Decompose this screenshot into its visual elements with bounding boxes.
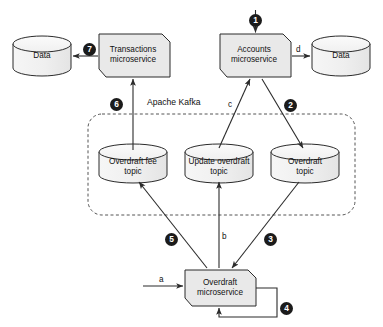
service-accounts [220, 34, 291, 77]
step-label-d: d [296, 45, 301, 54]
arrow-step-5 [139, 182, 207, 268]
step-label-b: b [222, 232, 227, 241]
datastore-data-right [312, 36, 370, 76]
datastore-data-left [13, 36, 71, 76]
service-overdraft [185, 270, 256, 306]
topic-update-overdraft [185, 144, 253, 183]
step-badge-7: 7 [83, 43, 96, 56]
step-badge-1: 1 [249, 14, 262, 27]
step-badge-4: 4 [280, 302, 293, 315]
step-label-a: a [159, 275, 164, 284]
architecture-diagram [0, 0, 383, 327]
arrow-step-3 [232, 182, 299, 268]
step-label-c: c [228, 100, 232, 109]
step-badge-5: 5 [165, 233, 178, 246]
service-transactions [99, 34, 170, 77]
step-badge-3: 3 [264, 233, 277, 246]
step-badge-2: 2 [284, 99, 297, 112]
topic-overdraft [271, 144, 339, 183]
kafka-boundary-label: Apache Kafka [147, 97, 201, 107]
step-badge-6: 6 [110, 98, 123, 111]
